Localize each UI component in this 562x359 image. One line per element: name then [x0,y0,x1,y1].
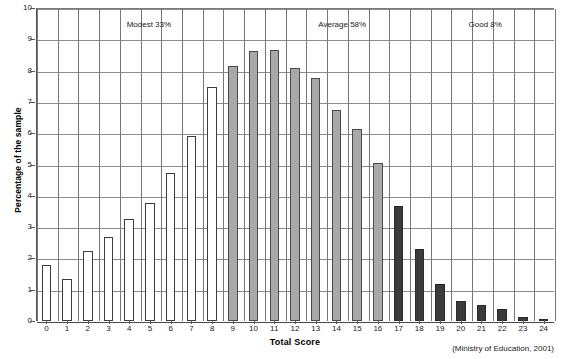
y-axis-tick-label: 6 [6,129,32,137]
y-axis-tick-mark [30,196,35,197]
x-axis-tick-mark [544,320,545,324]
x-axis-tick-mark [502,320,503,324]
x-axis-tick-label: 4 [119,324,139,333]
y-axis-tick-mark [30,227,35,228]
x-axis-tick-mark [523,320,524,324]
x-axis-tick-label: 3 [99,324,119,333]
bar-score-10 [249,51,259,321]
x-axis-tick-mark [419,320,420,324]
bar-score-9 [228,66,238,321]
bar-score-19 [435,284,445,321]
y-axis-tick-label: 3 [6,223,32,231]
x-axis-tick-mark [295,320,296,324]
x-axis-tick-label: 15 [347,324,367,333]
y-axis-tick-mark [30,102,35,103]
x-axis-tick-mark [67,320,68,324]
bar-score-3 [104,237,114,321]
x-axis-tick-label: 7 [181,324,201,333]
y-axis-tick-mark [30,39,35,40]
y-axis-tick-group: 012345678910 [0,8,32,321]
bar-score-13 [311,78,321,321]
x-axis-tick-label: 9 [223,324,243,333]
bar-score-15 [352,129,362,321]
x-axis-tick-mark [109,320,110,324]
y-axis-tick-label: 8 [6,67,32,75]
source-note: (Ministry of Education, 2001) [452,344,554,353]
x-axis-tick-mark [481,320,482,324]
x-axis-tick-label: 19 [430,324,450,333]
y-axis-tick-label: 5 [6,161,32,169]
y-axis-tick-label: 7 [6,98,32,106]
bar-score-5 [145,203,155,321]
x-axis-tick-mark [399,320,400,324]
bar-score-20 [456,301,466,321]
bar-score-0 [42,265,52,321]
x-axis-tick-mark [191,320,192,324]
y-axis-tick-label: 10 [6,4,32,12]
x-axis-tick-mark [171,320,172,324]
bar-score-2 [83,251,93,321]
x-axis-tick-mark [461,320,462,324]
x-axis-tick-label: 10 [244,324,264,333]
x-axis-tick-label: 0 [36,324,56,333]
y-axis-tick-mark [30,258,35,259]
y-axis-tick-label: 1 [6,286,32,294]
y-axis-tick-mark [30,71,35,72]
x-axis-tick-label: 22 [492,324,512,333]
x-axis-tick-mark [150,320,151,324]
bar-score-4 [124,219,134,321]
x-axis-tick-label: 12 [285,324,305,333]
bars-layer [36,8,554,321]
bar-score-12 [290,68,300,321]
x-axis-tick-mark [378,320,379,324]
x-axis-tick-mark [88,320,89,324]
x-axis-tick-label: 5 [140,324,160,333]
x-axis-tick-label: 11 [264,324,284,333]
bar-score-6 [166,173,176,321]
y-axis-tick-label: 9 [6,35,32,43]
x-axis-tick-label: 18 [409,324,429,333]
bar-score-1 [62,279,72,321]
y-axis-tick-mark [30,321,35,322]
band-annotation-modest: Modest 33% [127,20,171,29]
x-axis-tick-label: 2 [78,324,98,333]
x-axis-tick-label: 23 [513,324,533,333]
y-axis-tick-mark [30,133,35,134]
x-axis-tick-label: 8 [202,324,222,333]
x-axis-tick-mark [336,320,337,324]
x-axis-tick-group: 0123456789101112131415161718192021222324 [36,324,554,338]
x-axis-tick-label: 14 [326,324,346,333]
bar-score-17 [394,206,404,321]
x-axis-tick-mark [357,320,358,324]
y-axis-tick-label: 4 [6,192,32,200]
gridline-vertical [555,9,556,321]
x-axis-tick-mark [274,320,275,324]
x-axis-tick-mark [233,320,234,324]
x-axis-tick-label: 21 [471,324,491,333]
bar-score-11 [270,50,280,321]
x-axis-tick-label: 20 [451,324,471,333]
bar-score-14 [332,110,342,321]
band-annotation-average: Average 58% [318,20,366,29]
y-axis-tick-mark [30,8,35,9]
bar-score-8 [207,87,217,321]
band-annotation-good: Good 8% [469,20,502,29]
x-axis-tick-mark [440,320,441,324]
bar-score-16 [373,163,383,321]
bar-chart: Percentage of the sample 012345678910 01… [0,0,562,359]
y-axis-tick-label: 0 [6,317,32,325]
y-axis-tick-label: 2 [6,254,32,262]
bar-score-18 [415,249,425,321]
x-axis-tick-mark [129,320,130,324]
x-axis-tick-label: 24 [534,324,554,333]
x-axis-tick-label: 16 [368,324,388,333]
x-axis-tick-label: 13 [306,324,326,333]
bar-score-21 [477,305,487,321]
x-axis-tick-mark [46,320,47,324]
x-axis-tick-mark [316,320,317,324]
x-axis-tick-mark [254,320,255,324]
x-axis-tick-label: 1 [57,324,77,333]
y-axis-tick-mark [30,165,35,166]
x-axis-tick-label: 17 [389,324,409,333]
x-axis-tick-label: 6 [161,324,181,333]
